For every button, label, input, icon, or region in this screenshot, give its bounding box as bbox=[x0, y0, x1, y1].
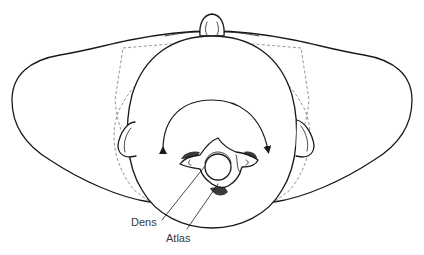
atlas-label: Atlas bbox=[166, 232, 191, 244]
diagram-stage: Dens Atlas bbox=[0, 0, 424, 255]
nose bbox=[200, 14, 224, 36]
head-outline bbox=[127, 36, 296, 228]
vertebral-foramen bbox=[205, 154, 231, 180]
anatomy-diagram: Dens Atlas bbox=[0, 0, 424, 255]
dens-label: Dens bbox=[131, 216, 157, 228]
